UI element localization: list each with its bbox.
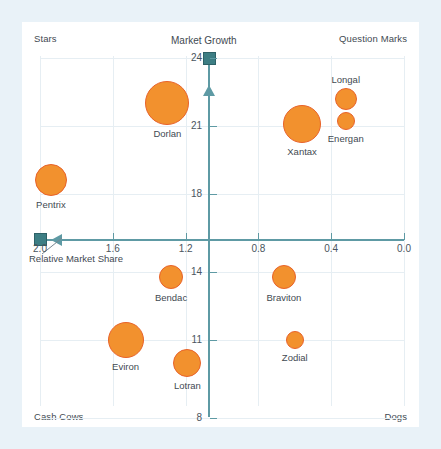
x-axis-tick-label: 2.0 [23,243,57,254]
y-axis-tick-label: 18 [176,188,202,199]
bubble-label-braviton: Braviton [249,292,319,303]
x-axis-tick-label: 1.6 [96,243,130,254]
x-axis-tick [258,233,259,240]
bubble-eviron[interactable] [108,322,144,358]
chart-canvas: Stars Question Marks Cash Cows Dogs Mark… [0,0,441,449]
y-axis-tick [210,194,217,195]
bubble-label-lotran: Lotran [152,380,222,391]
gridline-horizontal [40,194,404,195]
bubble-label-xantax: Xantax [267,146,337,157]
x-axis-tick [186,233,187,240]
bubble-label-zodial: Zodial [260,352,330,363]
y-axis-tick [210,58,217,59]
y-axis-line [208,57,210,417]
bubble-label-energan: Energan [311,133,381,144]
quadrant-label-dogs: Dogs [384,411,407,422]
bubble-longal[interactable] [335,88,357,110]
quadrant-label-stars: Stars [34,33,57,44]
y-axis-tick [210,418,217,419]
bubble-label-longal: Longal [311,74,381,85]
quadrant-label-question-marks: Question Marks [339,33,407,44]
x-axis-tick [404,233,405,240]
y-axis-tick [210,126,217,127]
y-axis-tick-label: 24 [176,52,202,63]
bubble-zodial[interactable] [286,331,304,349]
gridline-vertical [331,56,332,406]
y-axis-tick-label: 21 [176,120,202,131]
x-axis-tick [331,233,332,240]
bubble-label-bendac: Bendac [136,292,206,303]
x-axis-tick-label: 0.0 [387,243,421,254]
y-axis-tick-label: 8 [176,412,202,423]
gridline-horizontal [40,340,404,341]
y-axis-arrow-icon [203,85,215,96]
bubble-label-eviron: Eviron [91,361,161,372]
gridline-vertical [404,56,405,406]
x-axis-tick-label: 0.4 [314,243,348,254]
y-axis-tick-label: 14 [176,266,202,277]
y-axis-tick-label: 11 [176,334,202,345]
gridline-horizontal [40,272,404,273]
y-axis-title: Market Growth [171,35,237,46]
bubble-label-pentrix: Pentrix [16,199,86,210]
gridline-horizontal [40,58,404,59]
gridline-horizontal [40,418,404,419]
y-axis-tick [210,272,217,273]
y-axis-tick [210,340,217,341]
x-axis-tick-label: 1.2 [169,243,203,254]
gridline-vertical [40,56,41,406]
x-axis-tick [113,233,114,240]
x-axis-tick-label: 0.8 [241,243,275,254]
quadrant-label-cash-cows: Cash Cows [34,411,83,422]
bubble-braviton[interactable] [272,265,296,289]
